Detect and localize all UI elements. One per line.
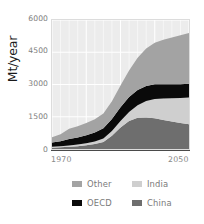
x-axis-line bbox=[51, 150, 190, 151]
legend-item-india[interactable]: India bbox=[132, 176, 168, 191]
y-tick-label: 3000 bbox=[19, 80, 48, 88]
legend-row: Other India bbox=[60, 176, 200, 191]
legend-swatch-icon bbox=[132, 200, 142, 206]
y-tick-label: 6000 bbox=[19, 15, 48, 23]
legend-label: OECD bbox=[87, 198, 112, 208]
legend-item-china[interactable]: China bbox=[132, 195, 172, 210]
legend-label: China bbox=[147, 198, 172, 208]
y-tick-label: 1500 bbox=[19, 113, 48, 121]
y-tick-label: 4500 bbox=[19, 47, 48, 55]
legend-row: OECD China bbox=[60, 195, 200, 210]
chart-figure: Mt/year 6000 4500 3000 1500 0 1970 2050 … bbox=[0, 0, 204, 224]
x-tick-label: 1970 bbox=[51, 155, 72, 164]
legend-label: India bbox=[147, 179, 168, 189]
legend-swatch-icon bbox=[72, 200, 82, 206]
legend-swatch-icon bbox=[72, 181, 82, 187]
legend-swatch-icon bbox=[132, 181, 142, 187]
y-tick-label: 0 bbox=[19, 146, 48, 154]
x-tick-label: 2050 bbox=[168, 155, 189, 164]
legend-item-other[interactable]: Other bbox=[72, 176, 112, 191]
chart-legend: Other India OECD China bbox=[60, 176, 200, 216]
legend-label: Other bbox=[87, 179, 112, 189]
plot-area bbox=[51, 19, 190, 150]
stacked-area-plot bbox=[52, 20, 189, 149]
y-axis-tick-labels: 6000 4500 3000 1500 0 bbox=[17, 0, 48, 224]
legend-item-oecd[interactable]: OECD bbox=[72, 195, 112, 210]
